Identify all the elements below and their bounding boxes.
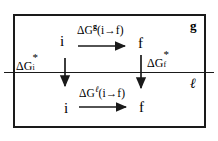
- phase-interface-line: [4, 72, 214, 73]
- free-energy-diagram: g ℓ i f ΔGg(i→f) i f ΔGℓ(i→f) ΔG*i ΔG*f: [0, 0, 218, 141]
- solvation-final-label: ΔG*f: [147, 55, 168, 69]
- state-final-liquid: f: [139, 100, 144, 115]
- liquid-transition-argument: (i→f): [99, 87, 126, 99]
- phase-label-gas: g: [190, 19, 197, 32]
- solvation-initial-subscript: i: [32, 64, 34, 72]
- gas-transition-delta-g: ΔG: [77, 24, 93, 36]
- phase-label-liquid: ℓ: [190, 77, 196, 91]
- gas-transition-argument: (i→f): [97, 24, 124, 36]
- liquid-transition-label: ΔGℓ(i→f): [79, 88, 125, 100]
- solvation-initial-delta-g: ΔG: [16, 59, 32, 73]
- liquid-transition-delta-g: ΔG: [79, 87, 95, 99]
- solvation-final-affixes: *f: [163, 55, 168, 67]
- solvation-initial-superscript: *: [32, 52, 38, 63]
- state-initial-liquid: i: [64, 101, 68, 116]
- state-final-gas: f: [138, 36, 143, 51]
- solvation-initial-affixes: *i: [32, 58, 37, 70]
- solvation-final-superscript: *: [163, 49, 169, 60]
- solvation-initial-label: ΔG*i: [16, 58, 37, 72]
- solvation-final-subscript: f: [163, 61, 166, 69]
- gas-transition-label: ΔGg(i→f): [77, 25, 124, 37]
- solvation-final-delta-g: ΔG: [147, 56, 163, 70]
- state-initial-gas: i: [60, 34, 64, 49]
